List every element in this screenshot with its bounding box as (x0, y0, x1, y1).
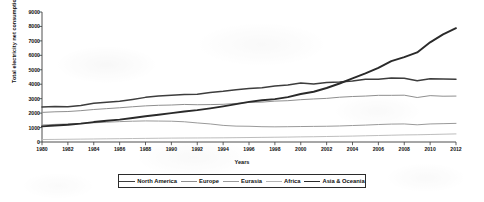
legend-label: Eurasia (241, 178, 262, 184)
legend-item[interactable]: North America (119, 178, 177, 184)
x-tick-label: 1988 (140, 146, 151, 152)
y-tick-label: 7000 (28, 38, 40, 44)
y-tick-label: 9000 (28, 9, 40, 15)
legend-label: North America (137, 178, 177, 184)
series-line (42, 134, 456, 140)
x-tick-label: 1994 (217, 146, 228, 152)
x-tick-label: 1980 (36, 146, 47, 152)
legend-label: Europe (199, 178, 219, 184)
x-axis-title: Years (0, 159, 484, 165)
y-axis-tick-labels: 0100020003000400050006000700080009000 (14, 0, 40, 202)
legend-line-swatch (223, 181, 239, 182)
x-tick-label: 1990 (166, 146, 177, 152)
legend-item[interactable]: Europe (181, 178, 219, 184)
x-tick-label: 2012 (450, 146, 461, 152)
x-tick-label: 1996 (243, 146, 254, 152)
x-tick-label: 2000 (295, 146, 306, 152)
legend-line-swatch (119, 181, 135, 182)
legend-label: Asia & Oceania (322, 178, 364, 184)
y-tick-label: 4000 (28, 81, 40, 87)
plot-area (42, 12, 456, 142)
y-tick-label: 1000 (28, 125, 40, 131)
x-tick-label: 1982 (62, 146, 73, 152)
chart-legend: North AmericaEuropeEurasiaAfricaAsia & O… (118, 174, 366, 188)
x-tick-label: 1992 (192, 146, 203, 152)
y-tick-label: 3000 (28, 96, 40, 102)
x-tick-label: 2008 (399, 146, 410, 152)
legend-line-swatch (266, 181, 282, 182)
legend-label: Africa (284, 178, 300, 184)
x-tick-label: 2002 (321, 146, 332, 152)
y-tick-label: 8000 (28, 23, 40, 29)
x-tick-label: 1986 (114, 146, 125, 152)
series-line (42, 28, 456, 126)
plot-svg (42, 12, 456, 148)
y-tick-label: 2000 (28, 110, 40, 116)
series-line (42, 95, 456, 112)
x-tick-label: 1984 (88, 146, 99, 152)
legend-line-swatch (181, 181, 197, 182)
x-axis-tick-labels: 1980198219841986198819901992199419961998… (42, 146, 456, 156)
y-tick-label: 6000 (28, 52, 40, 58)
legend-line-swatch (304, 181, 320, 182)
x-tick-label: 2004 (347, 146, 358, 152)
x-tick-label: 2006 (373, 146, 384, 152)
x-tick-label: 1998 (269, 146, 280, 152)
legend-item[interactable]: Africa (266, 178, 300, 184)
legend-item[interactable]: Asia & Oceania (304, 178, 364, 184)
x-tick-label: 2010 (424, 146, 435, 152)
line-chart: Total electricity net consumption (Billi… (0, 0, 484, 202)
y-tick-label: 5000 (28, 67, 40, 73)
legend-item[interactable]: Eurasia (223, 178, 262, 184)
